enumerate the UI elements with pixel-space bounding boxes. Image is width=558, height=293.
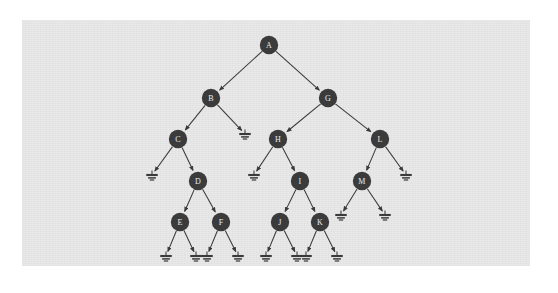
tree-node-m[interactable]: M — [353, 172, 371, 190]
null-pointer-ground-icon — [335, 210, 347, 220]
null-pointer-ground-icon — [331, 251, 343, 261]
null-pointer-ground-icon — [239, 129, 251, 139]
tree-node-h[interactable]: H — [269, 130, 287, 148]
tree-edge-J-to-n11 — [268, 231, 277, 252]
tree-node-l[interactable]: L — [371, 130, 389, 148]
tree-edge-C-to-n2 — [155, 147, 173, 171]
null-pointer-ground-icon — [190, 251, 202, 261]
tree-edge-C-to-D — [182, 147, 193, 170]
tree-node-b[interactable]: B — [202, 89, 220, 107]
binary-tree-diagram: ABGCHLDIMEFJK — [0, 0, 558, 293]
tree-edge-H-to-n3 — [257, 147, 273, 171]
tree-edge-B-to-C — [185, 105, 205, 129]
tree-edge-G-to-L — [335, 104, 370, 132]
tree-edge-M-to-n5 — [344, 189, 357, 211]
tree-node-c[interactable]: C — [169, 130, 187, 148]
null-pointer-ground-icon — [260, 251, 272, 261]
tree-edge-A-to-B — [220, 51, 262, 90]
tree-edge-K-to-n13 — [308, 231, 317, 252]
null-pointer-ground-icon — [248, 170, 260, 180]
null-pointer-ground-icon — [379, 210, 391, 220]
tree-node-label: E — [177, 218, 182, 227]
tree-edge-D-to-E — [185, 190, 194, 212]
tree-node-d[interactable]: D — [189, 172, 207, 190]
tree-node-label: G — [325, 94, 331, 103]
tree-edge-A-to-G — [276, 51, 319, 90]
tree-edge-E-to-n7 — [168, 231, 177, 252]
tree-node-label: L — [377, 135, 382, 144]
tree-node-i[interactable]: I — [291, 172, 309, 190]
nodes-layer: ABGCHLDIMEFJK — [169, 36, 389, 231]
tree-node-j[interactable]: J — [271, 213, 289, 231]
tree-node-label: F — [219, 218, 224, 227]
tree-edge-M-to-n6 — [367, 189, 382, 211]
tree-node-label: B — [208, 94, 214, 103]
tree-node-label: C — [175, 135, 181, 144]
null-pointer-ground-icon — [300, 251, 312, 261]
tree-node-label: M — [358, 177, 365, 186]
tree-edge-L-to-M — [367, 148, 377, 171]
tree-edge-G-to-H — [287, 104, 321, 132]
null-pointer-ground-icon — [201, 251, 213, 261]
tree-node-label: A — [266, 41, 272, 50]
tree-node-a[interactable]: A — [260, 36, 278, 54]
tree-edge-F-to-n9 — [209, 231, 218, 252]
tree-edge-L-to-n4 — [386, 147, 404, 171]
tree-edge-D-to-F — [203, 189, 216, 212]
tree-node-label: I — [299, 177, 302, 186]
tree-edge-H-to-I — [282, 147, 294, 170]
null-pointer-ground-icon — [160, 251, 172, 261]
tree-node-label: J — [278, 218, 281, 227]
tree-edge-E-to-n8 — [184, 231, 194, 252]
null-pointer-ground-icon — [232, 251, 244, 261]
tree-node-label: H — [275, 135, 281, 144]
tree-node-f[interactable]: F — [212, 213, 230, 231]
tree-edge-B-to-n1 — [217, 105, 241, 131]
tree-node-g[interactable]: G — [319, 89, 337, 107]
tree-edge-F-to-n10 — [225, 230, 236, 251]
tree-node-e[interactable]: E — [171, 213, 189, 231]
figure-canvas: ABGCHLDIMEFJK — [0, 0, 558, 293]
null-pointer-ground-icon — [400, 170, 412, 180]
tree-node-k[interactable]: K — [311, 213, 329, 231]
tree-node-label: K — [317, 218, 323, 227]
tree-edge-I-to-J — [285, 189, 296, 211]
tree-node-label: D — [195, 177, 201, 186]
tree-edge-K-to-n14 — [324, 230, 335, 251]
tree-edge-J-to-n12 — [284, 230, 295, 251]
null-pointer-ground-icon — [146, 170, 158, 180]
tree-edge-I-to-K — [304, 189, 315, 211]
